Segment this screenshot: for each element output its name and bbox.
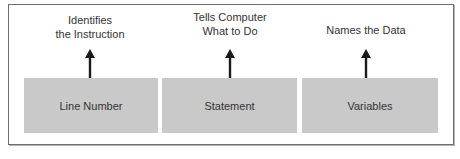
annotation-text: the Instruction [20,27,160,41]
arrow-up-icon [224,49,236,78]
box-label: Statement [204,100,254,112]
box-label: Variables [347,100,392,112]
annotation-text: What to Do [160,24,300,38]
arrow-up-icon [84,49,96,78]
annotation-text: Tells Computer [160,10,300,24]
annotation-line-number: Identifies the Instruction [20,13,160,41]
annotation-text: Identifies [20,13,160,27]
box-variables: Variables [302,78,438,133]
annotation-variables: Names the Data [296,23,436,37]
box-statement: Statement [162,78,297,133]
annotation-statement: Tells Computer What to Do [160,10,300,38]
arrow-up-icon [360,49,372,78]
box-label: Line Number [60,100,123,112]
box-line-number: Line Number [24,78,158,133]
annotation-text: Names the Data [296,23,436,37]
